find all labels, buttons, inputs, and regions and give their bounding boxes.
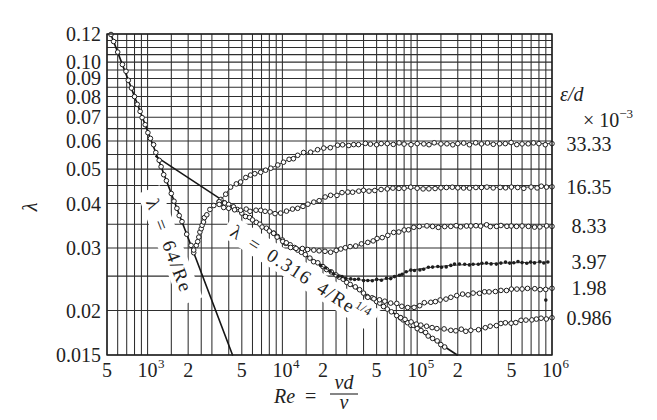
data-point bbox=[460, 292, 465, 297]
data-point bbox=[413, 269, 417, 273]
x-tick-label: 10 bbox=[272, 359, 292, 381]
data-point bbox=[405, 305, 410, 310]
data-point bbox=[444, 265, 448, 269]
data-point bbox=[538, 260, 542, 264]
data-point bbox=[228, 185, 233, 190]
data-point bbox=[159, 164, 164, 169]
data-point bbox=[485, 185, 490, 190]
data-point bbox=[508, 261, 512, 265]
data-point bbox=[422, 268, 426, 272]
data-point bbox=[450, 185, 455, 190]
y-tick-label: 0.06 bbox=[66, 130, 101, 152]
data-point bbox=[464, 329, 469, 334]
data-point bbox=[449, 224, 454, 229]
data-point bbox=[386, 233, 391, 238]
data-point bbox=[430, 325, 435, 330]
data-point bbox=[164, 178, 169, 183]
data-point bbox=[412, 225, 417, 230]
data-point bbox=[479, 142, 484, 147]
x-label-numerator: vd bbox=[335, 371, 355, 393]
data-point bbox=[417, 303, 422, 308]
data-point bbox=[248, 209, 253, 214]
data-point bbox=[191, 248, 196, 253]
data-point bbox=[474, 223, 479, 228]
data-point bbox=[512, 261, 516, 265]
data-point bbox=[431, 265, 435, 269]
data-point bbox=[449, 328, 454, 333]
data-point bbox=[357, 277, 361, 281]
legend: ε/d × 10−3 33.3316.358.333.971.980.986 bbox=[560, 83, 633, 329]
series-eps-16.35 bbox=[217, 184, 554, 216]
x-tick-label: 5 bbox=[237, 359, 247, 381]
data-point bbox=[161, 172, 166, 177]
data-point bbox=[499, 321, 504, 326]
data-point bbox=[343, 245, 348, 250]
data-point bbox=[366, 279, 370, 283]
data-point bbox=[175, 206, 180, 211]
data-point bbox=[388, 301, 393, 306]
data-point bbox=[226, 206, 231, 211]
data-point bbox=[389, 310, 394, 315]
data-point bbox=[498, 185, 503, 190]
data-point bbox=[415, 141, 420, 146]
y-tick-label: 0.015 bbox=[56, 344, 101, 366]
data-point bbox=[232, 208, 237, 213]
data-point bbox=[301, 204, 306, 209]
x-tick-exponent: 3 bbox=[158, 356, 165, 371]
data-point bbox=[419, 323, 424, 328]
data-point bbox=[295, 206, 300, 211]
data-point bbox=[432, 141, 437, 146]
data-point bbox=[281, 160, 286, 165]
data-point bbox=[503, 321, 508, 326]
data-point bbox=[317, 249, 322, 254]
data-point bbox=[372, 297, 377, 302]
data-point bbox=[397, 230, 402, 235]
data-point bbox=[391, 142, 396, 147]
x-tick-label: 5 bbox=[506, 359, 516, 381]
data-point bbox=[275, 235, 280, 240]
x-label-denominator: ν bbox=[340, 391, 349, 413]
data-point bbox=[154, 150, 159, 155]
data-point bbox=[471, 263, 475, 267]
x-tick-label: 5 bbox=[372, 359, 382, 381]
data-point bbox=[374, 142, 379, 147]
data-point bbox=[444, 185, 449, 190]
data-point bbox=[425, 224, 430, 229]
data-point bbox=[344, 277, 348, 281]
data-point bbox=[271, 231, 276, 236]
data-point bbox=[503, 141, 508, 146]
data-point bbox=[427, 142, 432, 147]
data-point bbox=[408, 185, 413, 190]
x-tick-label: 2 bbox=[183, 359, 193, 381]
data-point bbox=[477, 262, 481, 266]
data-point bbox=[157, 158, 162, 163]
data-point bbox=[288, 245, 293, 250]
data-point bbox=[435, 339, 440, 344]
data-point bbox=[383, 299, 388, 304]
y-tick-label: 0.07 bbox=[66, 106, 101, 128]
data-point bbox=[385, 187, 390, 192]
data-point bbox=[269, 166, 274, 171]
data-point bbox=[433, 299, 438, 304]
data-point bbox=[301, 150, 306, 155]
data-point bbox=[335, 193, 340, 198]
data-point bbox=[458, 225, 463, 230]
data-point bbox=[417, 224, 422, 229]
legend-unit-exponent: −3 bbox=[619, 106, 633, 121]
x-label-equals: = bbox=[305, 385, 316, 407]
y-tick-label: 0.04 bbox=[66, 193, 101, 215]
data-point bbox=[442, 224, 447, 229]
data-point bbox=[409, 320, 414, 325]
data-point bbox=[291, 156, 296, 161]
data-point bbox=[463, 262, 467, 266]
data-point bbox=[223, 192, 228, 197]
series-eps-1.98 bbox=[366, 286, 555, 310]
data-point bbox=[529, 260, 533, 264]
legend-title: ε/d bbox=[560, 83, 584, 105]
data-point bbox=[340, 275, 344, 279]
data-point bbox=[504, 288, 509, 293]
data-point bbox=[442, 345, 447, 350]
data-point bbox=[436, 265, 440, 269]
data-point bbox=[362, 279, 366, 283]
data-point bbox=[197, 235, 202, 240]
